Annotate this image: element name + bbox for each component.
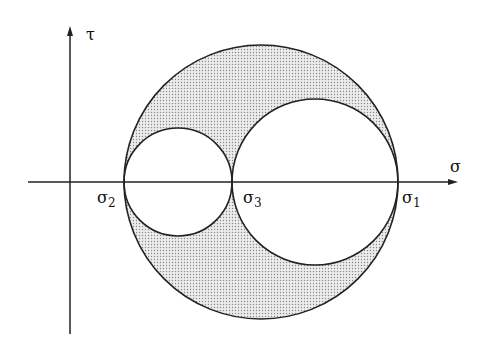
sigma2-label: σ2 [97, 188, 116, 210]
sigma1-label: σ1 [402, 188, 421, 210]
tau-axis-label: τ [86, 25, 95, 44]
mohr-circle-diagram: τ σ σ2 σ3 σ1 [0, 0, 486, 350]
sigma-axis-arrow-icon [448, 179, 458, 185]
tau-axis-arrow-icon [67, 26, 73, 36]
sigma-axis-label: σ [450, 157, 461, 176]
